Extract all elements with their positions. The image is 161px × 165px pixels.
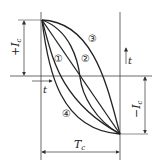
t-label-left: t	[43, 84, 48, 95]
minus-ic-label: −Ic	[130, 100, 144, 118]
curve-3-marker: ③	[88, 33, 97, 44]
curve-2-marker: ②	[81, 53, 90, 64]
curve-1-marker: ①	[54, 53, 63, 64]
t-label-right: t	[128, 55, 133, 66]
curve-4-marker: ④	[62, 108, 71, 119]
tc-label: Tc	[74, 138, 85, 152]
plus-ic-label: +Ic	[9, 38, 23, 56]
current-reversal-diagram: +Ic −Ic Tc t t ① ② ③ ④	[0, 0, 161, 165]
